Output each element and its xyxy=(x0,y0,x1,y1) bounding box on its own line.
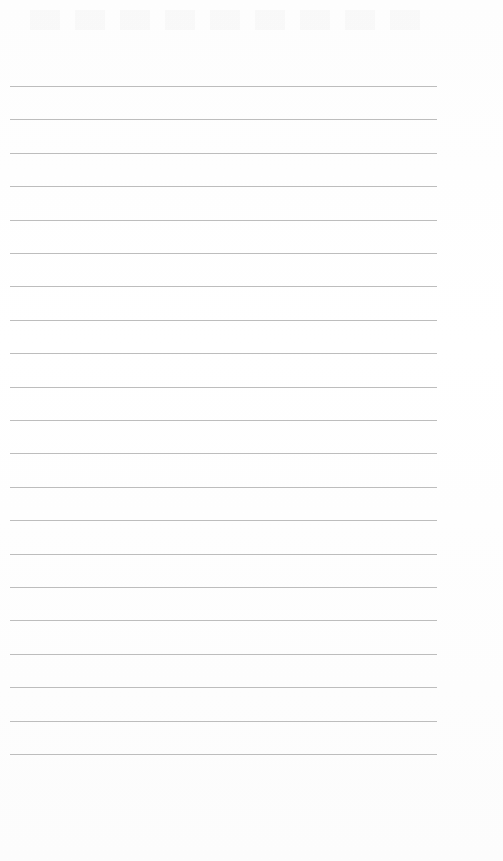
ruled-line xyxy=(10,754,437,755)
ruled-line xyxy=(10,721,437,722)
ruled-line xyxy=(10,86,437,87)
ruled-line xyxy=(10,520,437,521)
ruled-line xyxy=(10,353,437,354)
ruled-line xyxy=(10,587,437,588)
ruled-line xyxy=(10,654,437,655)
ruled-line xyxy=(10,453,437,454)
ruled-line xyxy=(10,220,437,221)
ruled-line xyxy=(10,286,437,287)
ruled-line xyxy=(10,687,437,688)
ruled-line xyxy=(10,620,437,621)
ruled-line xyxy=(10,420,437,421)
ruled-line xyxy=(10,119,437,120)
ruled-line xyxy=(10,387,437,388)
lined-paper-page xyxy=(0,0,503,861)
ruled-line xyxy=(10,487,437,488)
ruled-line xyxy=(10,153,437,154)
ruled-line xyxy=(10,253,437,254)
ruled-line xyxy=(10,554,437,555)
ruled-line xyxy=(10,186,437,187)
ruled-line xyxy=(10,320,437,321)
bleed-through-text xyxy=(30,10,430,30)
